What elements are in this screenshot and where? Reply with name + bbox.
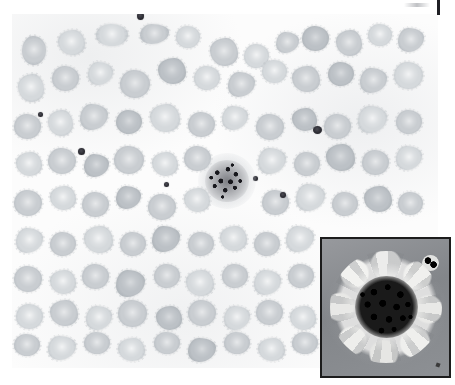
red-blood-cell — [150, 104, 180, 132]
red-blood-cell — [288, 264, 314, 288]
red-blood-cell — [332, 192, 358, 216]
red-blood-cell — [58, 30, 85, 55]
red-blood-cell — [222, 264, 248, 288]
red-blood-cell — [80, 104, 108, 130]
red-blood-cell — [336, 30, 362, 56]
red-blood-cell — [14, 334, 40, 356]
red-blood-cell — [14, 266, 42, 292]
red-blood-cell — [120, 70, 150, 98]
red-blood-cell — [50, 232, 76, 256]
red-blood-cell — [294, 152, 320, 176]
red-blood-cell — [254, 232, 280, 256]
red-blood-cell — [228, 72, 255, 97]
red-blood-cell — [82, 192, 109, 217]
magnified-inset-panel — [320, 237, 451, 378]
red-blood-cell — [296, 184, 325, 211]
red-blood-cell — [148, 194, 176, 220]
red-blood-cell — [210, 38, 238, 66]
red-blood-cell — [358, 106, 387, 133]
red-blood-cell — [158, 58, 186, 84]
red-blood-cell — [88, 62, 113, 85]
inset-satellite-object — [422, 255, 439, 271]
platelet — [38, 112, 43, 117]
red-blood-cell — [116, 186, 141, 209]
red-blood-cell — [114, 146, 144, 174]
red-blood-cell — [156, 306, 182, 330]
red-blood-cell — [302, 26, 329, 51]
red-blood-cell — [364, 186, 392, 212]
red-blood-cell — [258, 338, 285, 361]
red-blood-cell — [188, 338, 216, 362]
red-blood-cell — [394, 62, 423, 89]
inset-nucleus — [355, 276, 418, 338]
red-blood-cell — [256, 300, 283, 325]
red-blood-cell — [86, 306, 112, 330]
red-blood-cell — [84, 332, 110, 354]
red-blood-cell — [188, 112, 215, 137]
red-blood-cell — [276, 32, 299, 53]
red-blood-cell — [96, 24, 128, 46]
red-blood-cell — [324, 114, 351, 139]
red-blood-cell — [368, 24, 392, 46]
red-blood-cell — [262, 60, 287, 83]
top-right-bar-artifact — [437, 0, 440, 15]
red-blood-cell — [254, 270, 281, 295]
red-blood-cell — [116, 110, 142, 134]
red-blood-cell — [16, 152, 42, 176]
red-blood-cell — [360, 68, 387, 93]
red-blood-cell — [50, 300, 78, 326]
red-blood-cell — [362, 150, 389, 175]
red-blood-cell — [398, 192, 423, 215]
red-blood-cell — [396, 110, 422, 134]
red-blood-cell — [152, 152, 178, 176]
red-blood-cell — [118, 300, 147, 327]
red-blood-cell — [194, 66, 220, 90]
red-blood-cell — [154, 332, 180, 354]
red-blood-cell — [22, 36, 46, 65]
red-blood-cell — [224, 306, 250, 330]
platelet — [164, 182, 169, 187]
red-blood-cell — [220, 226, 247, 251]
red-blood-cell — [50, 270, 76, 294]
red-blood-cell — [398, 28, 424, 52]
red-blood-cell — [18, 74, 44, 102]
red-blood-cell — [154, 264, 180, 288]
red-blood-cell — [84, 226, 113, 253]
red-blood-cell — [82, 264, 109, 289]
red-blood-cell — [52, 66, 79, 91]
red-blood-cell — [48, 148, 76, 174]
red-blood-cell — [120, 232, 146, 256]
red-blood-cell — [84, 154, 109, 177]
dark-cell-granules — [205, 160, 249, 202]
red-blood-cell — [14, 114, 41, 139]
platelet — [280, 192, 286, 198]
red-blood-cell — [16, 228, 43, 253]
red-blood-cell — [328, 62, 354, 86]
platelet — [313, 126, 322, 134]
red-blood-cell — [48, 336, 76, 360]
red-blood-cell — [286, 226, 314, 252]
red-blood-cell — [16, 304, 43, 329]
platelet — [78, 148, 85, 155]
red-blood-cell — [152, 226, 180, 252]
red-blood-cell — [188, 300, 216, 326]
red-blood-cell — [116, 270, 145, 297]
red-blood-cell — [224, 332, 250, 354]
red-blood-cell — [48, 110, 73, 136]
dark-granular-cell — [205, 160, 249, 202]
red-blood-cell — [186, 270, 214, 296]
micrograph-figure — [0, 0, 455, 385]
red-blood-cell — [140, 24, 169, 44]
red-blood-cell — [50, 186, 76, 210]
red-blood-cell — [258, 148, 286, 174]
red-blood-cell — [188, 232, 214, 256]
top-edge-smudge-artifact — [404, 3, 430, 7]
red-blood-cell — [222, 106, 248, 130]
red-blood-cell — [326, 144, 355, 171]
red-blood-cell — [118, 338, 145, 361]
red-blood-cell — [176, 26, 200, 48]
red-blood-cell — [292, 66, 320, 92]
red-blood-cell — [292, 332, 318, 354]
red-blood-cell — [256, 114, 284, 140]
red-blood-cell — [14, 190, 42, 216]
